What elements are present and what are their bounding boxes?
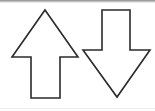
up-arrow-icon: [12, 10, 78, 98]
arrows-figure: [0, 0, 155, 111]
down-arrow-icon: [83, 10, 150, 97]
